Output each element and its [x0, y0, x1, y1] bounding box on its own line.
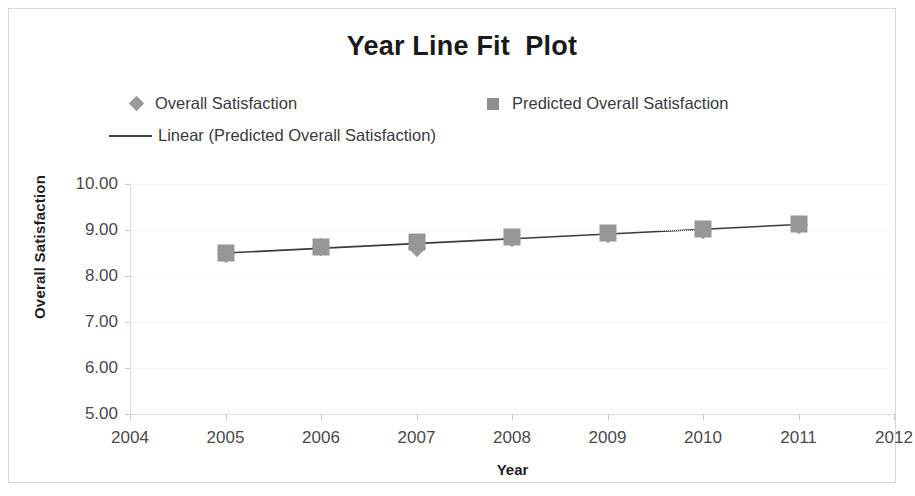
y-gridline — [130, 368, 894, 369]
data-point-square — [695, 221, 712, 238]
y-axis-tick — [125, 322, 130, 323]
chart-legend: Overall Satisfaction Predicted Overall S… — [9, 94, 915, 158]
x-axis-title: Year — [130, 461, 895, 478]
data-point-square — [217, 245, 234, 262]
legend-row-trendline: Linear (Predicted Overall Satisfaction) — [9, 126, 915, 158]
x-axis-tick-label: 2007 — [398, 428, 436, 448]
y-gridline — [130, 276, 894, 277]
chart-container: Year Line Fit Plot Overall Satisfaction … — [8, 8, 896, 483]
data-point-square — [408, 233, 425, 250]
trendline — [130, 184, 894, 414]
y-gridline — [130, 184, 894, 185]
legend-row-primary: Overall Satisfaction Predicted Overall S… — [9, 94, 915, 126]
x-axis-tick-label: 2011 — [780, 428, 817, 448]
y-axis-tick-label: 5.00 — [52, 404, 118, 424]
legend-item-linear-trendline[interactable]: Linear (Predicted Overall Satisfaction) — [109, 126, 436, 145]
data-point-square — [504, 228, 521, 245]
chart-title: Year Line Fit Plot — [9, 31, 915, 62]
data-point-square — [790, 216, 807, 233]
y-axis-tick-label: 9.00 — [52, 220, 118, 240]
x-axis-tick-label: 2010 — [684, 428, 722, 448]
y-gridline — [130, 322, 894, 323]
y-axis-tick-label: 10.00 — [52, 174, 118, 194]
y-axis-tick — [125, 230, 130, 231]
x-axis-tick — [703, 414, 704, 420]
x-axis-tick — [894, 414, 895, 420]
x-axis-tick-label: 2012 — [875, 428, 913, 448]
x-axis-tick-label: 2008 — [493, 428, 531, 448]
x-axis-tick-label: 2004 — [111, 428, 149, 448]
legend-label: Overall Satisfaction — [155, 94, 297, 113]
y-axis-tick — [125, 368, 130, 369]
x-axis-tick-label: 2005 — [207, 428, 245, 448]
data-point-square — [313, 239, 330, 256]
y-axis-tick — [125, 184, 130, 185]
y-axis-tick — [125, 276, 130, 277]
x-axis-tick — [512, 414, 513, 420]
y-axis-title: Overall Satisfaction — [31, 132, 48, 362]
x-axis-tick — [799, 414, 800, 420]
data-point-square — [599, 225, 616, 242]
legend-item-predicted-overall-satisfaction[interactable]: Predicted Overall Satisfaction — [487, 94, 728, 113]
x-axis-tick — [321, 414, 322, 420]
y-axis-tick-label: 8.00 — [52, 266, 118, 286]
y-axis-tick-label: 7.00 — [52, 312, 118, 332]
x-axis-tick — [226, 414, 227, 420]
x-axis-tick — [417, 414, 418, 420]
x-axis-tick-label: 2009 — [589, 428, 627, 448]
x-axis-tick-label: 2006 — [302, 428, 340, 448]
plot-area: 5.006.007.008.009.0010.00200420052006200… — [130, 184, 894, 414]
legend-label: Linear (Predicted Overall Satisfaction) — [158, 126, 436, 145]
legend-item-overall-satisfaction[interactable]: Overall Satisfaction — [131, 94, 297, 113]
x-axis-tick — [608, 414, 609, 420]
line-marker-icon — [109, 135, 152, 137]
square-marker-icon — [487, 98, 499, 110]
x-axis-tick — [130, 414, 131, 420]
y-axis-tick-label: 6.00 — [52, 358, 118, 378]
diamond-marker-icon — [129, 96, 145, 112]
legend-label: Predicted Overall Satisfaction — [512, 94, 728, 113]
